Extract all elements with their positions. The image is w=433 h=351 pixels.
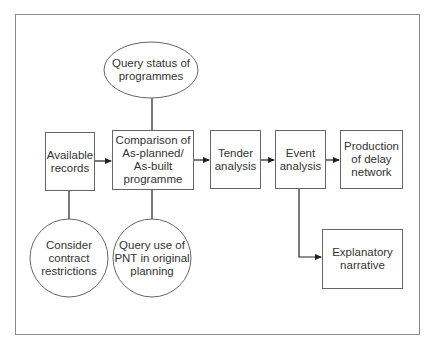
label-line: Explanatory	[332, 246, 393, 259]
label-line: programme	[116, 173, 191, 186]
label-line: Query status of	[112, 57, 190, 70]
label-line: Available	[47, 149, 93, 162]
label-line: Tender	[215, 147, 257, 160]
label-comparison: Comparison ofAs-planned/As-builtprogramm…	[112, 130, 194, 190]
label-event-analysis: Eventanalysis	[275, 130, 326, 189]
label-line: programmes	[112, 70, 190, 83]
arrow-event-to-explanatory	[299, 189, 321, 257]
label-line: As-built	[116, 160, 191, 173]
label-line: planning	[114, 265, 189, 278]
label-line: Production	[344, 140, 399, 153]
label-line: restrictions	[41, 265, 97, 278]
label-line: of delay	[344, 153, 399, 166]
label-line: As-planned/	[116, 147, 191, 160]
label-line: records	[47, 162, 93, 175]
label-query-status: Query status ofprogrammes	[104, 42, 198, 98]
label-line: Comparison of	[116, 134, 191, 147]
label-line: analysis	[215, 160, 257, 173]
label-line: Consider	[41, 239, 97, 252]
label-query-pnt: Query use ofPNT in originalplanning	[113, 219, 191, 297]
label-line: contract	[41, 252, 97, 265]
label-production: Productionof delaynetwork	[340, 130, 403, 189]
label-line: Event	[280, 147, 322, 160]
label-line: PNT in original	[114, 252, 189, 265]
label-available-records: Availablerecords	[45, 132, 95, 191]
label-explanatory: Explanatorynarrative	[322, 229, 403, 289]
label-line: analysis	[280, 160, 322, 173]
label-line: Query use of	[114, 239, 189, 252]
label-line: narrative	[332, 259, 393, 272]
label-line: network	[344, 166, 399, 179]
label-tender-analysis: Tenderanalysis	[210, 130, 261, 189]
label-consider-contract: Considercontractrestrictions	[30, 219, 108, 297]
